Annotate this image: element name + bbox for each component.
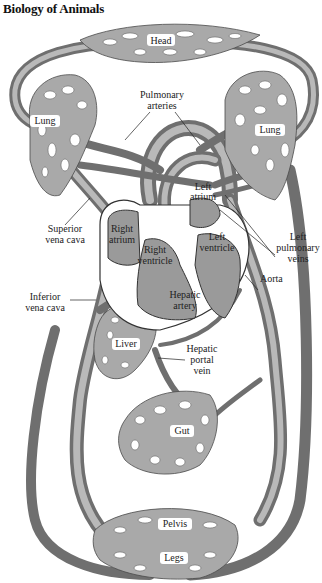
capillary-lung-left (29, 75, 96, 196)
label-inferior-vena-cava-2: vena cava (25, 302, 65, 313)
label-lung-left: Lung (34, 115, 55, 126)
circulatory-diagram: Head Pulmonary arteries Lung Lung Left a… (0, 0, 322, 583)
label-right-atrium-2: atrium (109, 234, 135, 245)
label-hepatic-portal-vein-3: vein (193, 365, 210, 376)
label-left-atrium-2: atrium (190, 191, 216, 202)
label-pelvis: Pelvis (163, 518, 188, 529)
label-left-pulmonary-veins-2: pulmonary (276, 242, 319, 253)
label-pulmonary-arteries-1: Pulmonary (140, 89, 184, 100)
label-gut: Gut (175, 425, 190, 436)
label-hepatic-portal-vein-1: Hepatic (186, 343, 218, 354)
label-left-ventricle-1: Left (209, 231, 226, 242)
label-right-ventricle-2: ventricle (138, 255, 174, 266)
label-superior-vena-cava-1: Superior (48, 223, 83, 234)
label-lung-right: Lung (259, 124, 280, 135)
label-liver: Liver (115, 338, 137, 349)
label-hepatic-portal-vein-2: portal (190, 354, 214, 365)
label-superior-vena-cava-2: vena cava (45, 234, 85, 245)
label-legs: Legs (164, 552, 184, 563)
label-right-atrium-1: Right (111, 223, 133, 234)
capillary-gut (119, 391, 218, 474)
label-pulmonary-arteries-2: arteries (147, 100, 177, 111)
label-hepatic-artery-1: Hepatic (169, 289, 201, 300)
label-inferior-vena-cava-1: Inferior (30, 291, 61, 302)
label-left-pulmonary-veins-3: veins (287, 253, 308, 264)
label-aorta: Aorta (260, 273, 283, 284)
label-hepatic-artery-2: artery (173, 300, 196, 311)
label-right-ventricle-1: Right (144, 244, 166, 255)
label-left-pulmonary-veins-1: Left (290, 231, 307, 242)
label-left-ventricle-2: ventricle (200, 242, 236, 253)
label-head: Head (150, 35, 171, 46)
